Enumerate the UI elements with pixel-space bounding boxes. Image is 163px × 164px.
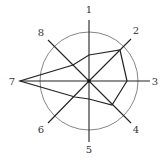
- axis-label-4: 4: [133, 124, 139, 135]
- axis-8: [48, 40, 89, 81]
- axis-label-5: 5: [86, 144, 92, 155]
- center-dot: [87, 79, 91, 83]
- data-polygon: [20, 50, 127, 105]
- axis-4: [89, 81, 131, 123]
- axis-label-2: 2: [133, 25, 139, 36]
- axis-label-1: 1: [86, 4, 92, 15]
- axis-label-8: 8: [38, 27, 44, 38]
- axis-label-6: 6: [38, 124, 44, 135]
- axis-label-7: 7: [9, 76, 15, 87]
- radar-diagram: 12345678: [0, 0, 163, 164]
- axis-2: [89, 39, 131, 81]
- axis-label-3: 3: [152, 76, 158, 87]
- axis-6: [48, 81, 89, 123]
- axis-labels-group: 12345678: [9, 4, 158, 155]
